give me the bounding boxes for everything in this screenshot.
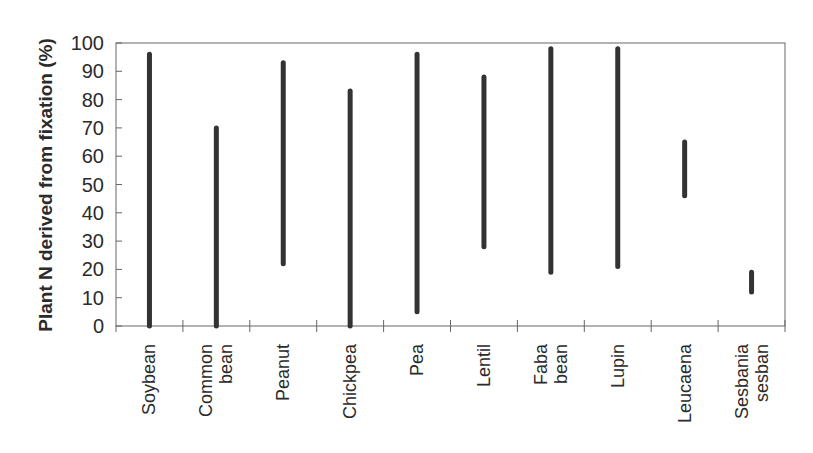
y-tick-label: 60 bbox=[82, 145, 104, 167]
range-chart: Plant N derived from fixation (%) 010203… bbox=[0, 0, 813, 453]
x-label-common-bean: Commonbean bbox=[196, 344, 236, 417]
y-tick-label: 0 bbox=[93, 315, 104, 337]
svg-text:Faba: Faba bbox=[531, 343, 551, 385]
x-label-pea: Pea bbox=[407, 343, 427, 376]
svg-text:Common: Common bbox=[196, 344, 216, 417]
svg-text:Chickpea: Chickpea bbox=[340, 343, 360, 419]
svg-text:Peanut: Peanut bbox=[273, 344, 293, 401]
svg-text:Pea: Pea bbox=[407, 343, 427, 376]
y-tick-label: 30 bbox=[82, 230, 104, 252]
x-label-faba-bean: Fababean bbox=[531, 343, 571, 385]
x-label-lentil: Lentil bbox=[474, 344, 494, 387]
y-tick-label: 80 bbox=[82, 89, 104, 111]
y-axis-label: Plant N derived from fixation (%) bbox=[35, 38, 56, 331]
svg-text:bean: bean bbox=[551, 344, 571, 384]
x-label-soybean: Soybean bbox=[139, 344, 159, 415]
y-tick-label: 20 bbox=[82, 258, 104, 280]
x-label-peanut: Peanut bbox=[273, 344, 293, 401]
y-axis-ticks: 0102030405060708090100 bbox=[71, 32, 122, 337]
y-tick-label: 50 bbox=[82, 174, 104, 196]
x-label-lupin: Lupin bbox=[608, 344, 628, 388]
x-label-chickpea: Chickpea bbox=[340, 343, 360, 419]
svg-text:sesban: sesban bbox=[752, 344, 772, 402]
svg-text:Sesbania: Sesbania bbox=[732, 343, 752, 419]
x-label-sesbania-sesban: Sesbaniasesban bbox=[732, 343, 772, 419]
y-tick-label: 40 bbox=[82, 202, 104, 224]
svg-text:Lentil: Lentil bbox=[474, 344, 494, 387]
svg-text:Leucaena: Leucaena bbox=[675, 343, 695, 423]
svg-text:Soybean: Soybean bbox=[139, 344, 159, 415]
y-tick-label: 10 bbox=[82, 287, 104, 309]
y-tick-label: 100 bbox=[71, 32, 104, 54]
y-tick-label: 90 bbox=[82, 60, 104, 82]
y-axis-label-group: Plant N derived from fixation (%) bbox=[35, 38, 56, 331]
range-bars bbox=[149, 49, 751, 326]
svg-text:Lupin: Lupin bbox=[608, 344, 628, 388]
x-axis-category-labels: SoybeanCommonbeanPeanutChickpeaPeaLentil… bbox=[139, 343, 771, 423]
x-label-leucaena: Leucaena bbox=[675, 343, 695, 423]
y-tick-label: 70 bbox=[82, 117, 104, 139]
svg-text:bean: bean bbox=[216, 344, 236, 384]
